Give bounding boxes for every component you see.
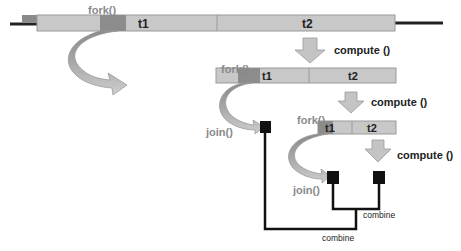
level1-task-bar [10,15,443,31]
combine-outer-label: combine [322,233,354,243]
level3-compute-down-arrow-icon [365,140,391,162]
level3-fork-arrow-icon [289,134,330,183]
combine-outer-line [265,133,356,229]
level1-fork-segment [100,15,126,31]
level1-t2-label: t2 [302,17,313,31]
level2-t2-label: t2 [348,70,358,82]
combine-outer-connector [265,133,356,229]
level1-t1-label: t1 [138,17,149,31]
level2-join-label: join() [205,126,233,138]
level2-join-node [260,121,271,133]
level2-fork-label: fork() [221,63,249,75]
level1-compute-label: compute () [334,44,391,56]
fork-join-diagram: fork() t1 t2 compute () fork() t1 t2 com… [0,0,461,251]
level3-compute-label: compute () [397,149,454,161]
level1-fork-label: fork() [88,4,116,16]
level1-fork-arrow-icon [68,31,127,95]
level3-join-node-right [373,171,385,184]
level3-join-label: join() [292,184,320,196]
level3-t1-label: t1 [325,122,335,134]
level3-join-node-left [327,171,339,184]
level3-t2-label: t2 [367,122,377,134]
level2-compute-label: compute () [371,96,428,108]
combine-inner-label: combine [363,210,395,220]
combine-inner-line [333,184,379,209]
combine-inner-connector [333,184,379,209]
level2-compute-down-arrow-icon [338,92,364,113]
level1-compute-down-arrow-icon [295,38,325,63]
bar-stub [22,15,38,22]
level3-fork-label: fork() [297,114,325,126]
level1-bar [37,15,395,31]
level2-t1-label: t1 [262,70,272,82]
